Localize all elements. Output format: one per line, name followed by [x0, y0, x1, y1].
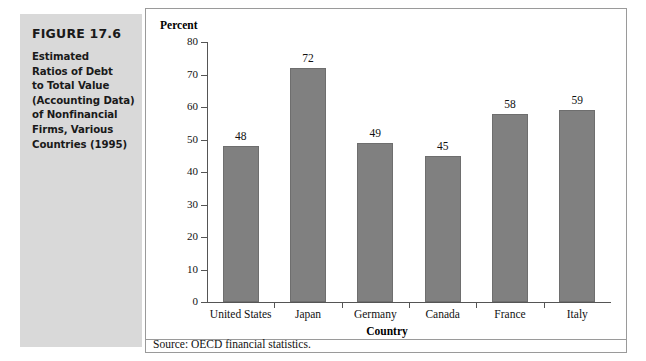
y-axis-tick-label: 20: [154, 230, 198, 242]
x-axis-category-label: Italy: [567, 308, 588, 320]
x-axis-category-label: Germany: [354, 308, 397, 320]
bar: [492, 114, 528, 303]
bar-value-label: 49: [370, 127, 382, 139]
x-axis-category-label: Japan: [295, 308, 321, 320]
x-axis-tick: [274, 302, 275, 308]
x-axis-tick: [544, 302, 545, 308]
bar: [357, 143, 393, 302]
figure-caption-block: FIGURE 17.6 Estimated Ratios of Debt to …: [20, 14, 142, 347]
caption-line: to Total Value: [32, 79, 132, 94]
y-axis-tick-label: 70: [154, 68, 198, 80]
caption-line: Countries (1995): [32, 138, 132, 153]
y-axis-tick: [201, 42, 207, 43]
y-axis-tick-label: 10: [154, 263, 198, 275]
x-axis-tick: [409, 302, 410, 308]
y-axis-tick: [201, 205, 207, 206]
bar-value-label: 59: [572, 94, 584, 106]
x-axis-title: Country: [146, 325, 628, 337]
bar-value-label: 58: [504, 98, 516, 110]
y-axis-tick-label: 30: [154, 198, 198, 210]
x-axis-category-label: United States: [210, 308, 272, 320]
source-note: Source: OECD financial statistics.: [153, 338, 311, 350]
bar: [559, 110, 595, 302]
bar-value-label: 45: [437, 140, 449, 152]
caption-line: (Accounting Data): [32, 94, 132, 109]
y-axis-tick-label: 50: [154, 133, 198, 145]
x-axis-category-label: Canada: [425, 308, 459, 320]
y-axis-tick-label: 0: [154, 295, 198, 307]
y-axis-tick: [201, 270, 207, 271]
chart-panel: Percent 01020304050607080 487249455859 U…: [145, 8, 627, 353]
caption-line: Firms, Various: [32, 123, 132, 138]
y-axis-title: Percent: [160, 19, 197, 31]
x-axis-category-label: France: [494, 308, 525, 320]
y-axis-tick: [201, 172, 207, 173]
bar: [223, 146, 259, 302]
bar-value-label: 72: [302, 52, 314, 64]
figure-caption-text: Estimated Ratios of Debt to Total Value …: [32, 50, 132, 152]
figure-number: FIGURE 17.6: [32, 27, 132, 41]
caption-line: of Nonfinancial: [32, 108, 132, 123]
y-axis-tick: [201, 302, 207, 303]
y-axis-tick-label: 60: [154, 100, 198, 112]
plot-area: Percent 01020304050607080 487249455859 U…: [146, 9, 628, 354]
y-axis-tick: [201, 140, 207, 141]
bar: [425, 156, 461, 302]
y-axis-tick: [201, 75, 207, 76]
x-axis-tick: [342, 302, 343, 308]
bar-value-label: 48: [235, 130, 247, 142]
caption-line: Estimated: [32, 50, 132, 65]
y-axis-tick-label: 80: [154, 35, 198, 47]
bar: [290, 68, 326, 302]
y-axis-line: [207, 42, 208, 302]
y-axis-tick-label: 40: [154, 165, 198, 177]
x-axis-tick: [476, 302, 477, 308]
y-axis-tick: [201, 237, 207, 238]
y-axis-tick: [201, 107, 207, 108]
figure-container: FIGURE 17.6 Estimated Ratios of Debt to …: [0, 0, 646, 361]
caption-line: Ratios of Debt: [32, 65, 132, 80]
